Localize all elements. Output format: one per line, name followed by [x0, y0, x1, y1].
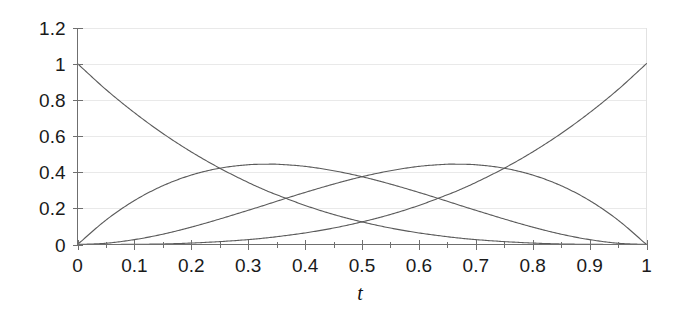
x-tick-label: 0.2 — [178, 255, 204, 276]
x-tick-label: 0.4 — [292, 255, 319, 276]
chart-figure: 00.10.20.30.40.50.60.70.80.91 00.20.40.6… — [0, 0, 682, 320]
x-axis-title: t — [357, 282, 363, 304]
y-tick-label: 0 — [55, 235, 66, 256]
x-tick-label: 0.3 — [235, 255, 261, 276]
y-tick-label: 1 — [55, 54, 66, 75]
y-tick-label: 0.2 — [39, 198, 65, 219]
y-tick-label: 0.8 — [39, 90, 65, 111]
x-tick-label: 0.6 — [406, 255, 432, 276]
y-tick-label: 0.4 — [39, 162, 66, 183]
x-tick-label: 0.9 — [576, 255, 602, 276]
x-tick-label: 1 — [641, 255, 652, 276]
plot-svg: 00.10.20.30.40.50.60.70.80.91 00.20.40.6… — [0, 0, 682, 320]
x-tick-label: 0.1 — [121, 255, 147, 276]
x-tick-label: 0.8 — [519, 255, 545, 276]
x-tick-label: 0 — [72, 255, 83, 276]
y-tick-label: 0.6 — [39, 126, 65, 147]
y-tick-label: 1.2 — [39, 18, 65, 39]
x-tick-label: 0.5 — [349, 255, 375, 276]
x-tick-label: 0.7 — [463, 255, 489, 276]
